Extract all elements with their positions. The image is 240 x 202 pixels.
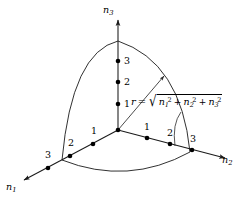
formula-radicand: n12 + n22 + n32 (157, 94, 222, 109)
tick-label-n3-2: 2 (124, 77, 130, 87)
formula-term-1: n12 (159, 96, 172, 109)
formula-operator-1: + (174, 97, 182, 107)
axis-label-n2-sub: 2 (228, 159, 232, 167)
formula-term-3: n32 (208, 96, 221, 109)
arc-n1-n2 (62, 152, 190, 171)
axis-label-n3-sub: 3 (109, 9, 113, 17)
tick-label-n2-3: 3 (190, 134, 196, 144)
tick-label-n1-2: 2 (68, 138, 74, 148)
formula-leader-line (174, 112, 181, 146)
formula-term-3-sup: 2 (217, 96, 221, 104)
tick-label-n1-3: 3 (45, 150, 51, 160)
formula-equals: = (138, 96, 146, 107)
dot-n1-2 (68, 154, 73, 159)
tick-label-n2-1: 1 (144, 122, 150, 132)
axis-label-n2: n2 (222, 155, 233, 167)
formula-radical: √ n12 + n22 + n32 (149, 94, 223, 109)
dot-n2-3 (190, 148, 195, 153)
dot-n1-3 (46, 166, 51, 171)
figure-canvas: n3 n2 n1 1 2 3 1 2 3 1 2 3 r = √ n12 + n… (0, 0, 240, 202)
radius-formula: r = √ n12 + n22 + n32 (131, 94, 222, 109)
tick-label-n2-2: 2 (167, 128, 173, 138)
dot-origin (116, 128, 121, 133)
axis-label-n1: n1 (6, 182, 17, 194)
axis-label-n3: n3 (103, 5, 114, 17)
formula-term-1-sup: 2 (168, 96, 172, 104)
formula-term-2-sup: 2 (192, 96, 196, 104)
tick-label-n3-3: 3 (124, 56, 130, 66)
tick-label-n3-1: 1 (124, 99, 130, 109)
dot-n2-2 (168, 142, 173, 147)
formula-lhs: r (131, 96, 136, 107)
radical-sign-icon: √ (149, 94, 157, 109)
dot-n2-1 (145, 136, 150, 141)
formula-operator-2: + (199, 97, 207, 107)
formula-term-2: n22 (184, 96, 197, 109)
dot-n1-1 (91, 142, 96, 147)
dot-n3-2 (116, 80, 121, 85)
dot-n3-3 (116, 59, 121, 64)
tick-label-n1-1: 1 (91, 126, 97, 136)
axis-label-n1-sub: 1 (12, 186, 16, 194)
dot-n3-1 (116, 102, 121, 107)
